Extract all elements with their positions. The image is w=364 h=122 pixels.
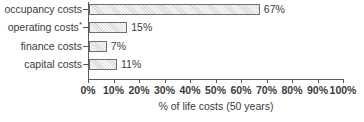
bar (89, 41, 107, 52)
bar-row: finance costs 7% (0, 40, 364, 57)
x-axis-title: % of life costs (50 years) (88, 100, 344, 113)
bar-value-label: 11% (121, 58, 141, 71)
value-axis-tick (318, 79, 319, 83)
footnote-marker: * (79, 20, 82, 29)
value-axis-tick (114, 79, 115, 83)
category-tick (83, 46, 88, 47)
bar-value-label: 67% (264, 3, 285, 16)
category-label-text: finance costs (21, 40, 82, 52)
value-axis-tick (216, 79, 217, 83)
category-label: occupancy costs (0, 3, 82, 16)
value-axis-tick (292, 79, 293, 83)
bar (89, 22, 127, 33)
value-axis-tick (343, 79, 344, 83)
bar-row: operating costs* 15% (0, 21, 364, 38)
category-label: operating costs* (0, 21, 82, 34)
bar-value-label: 15% (131, 21, 152, 34)
category-label-text: operating costs (8, 21, 79, 33)
value-axis-tick (165, 79, 166, 83)
category-label: capital costs (0, 58, 82, 71)
value-axis-tick (190, 79, 191, 83)
category-tick (83, 27, 88, 28)
bar-row: occupancy costs 67% (0, 3, 364, 20)
category-label-text: capital costs (24, 58, 82, 70)
category-label: finance costs (0, 40, 82, 53)
value-axis-tick (139, 79, 140, 83)
bar (89, 59, 117, 70)
value-axis-tick (241, 79, 242, 83)
category-tick (83, 64, 88, 65)
category-label-text: occupancy costs (4, 3, 82, 15)
bar-row: capital costs 11% (0, 58, 364, 75)
category-tick (83, 9, 88, 10)
bar-chart: occupancy costs 67% operating costs* 15%… (0, 0, 364, 122)
value-axis-tick (88, 79, 89, 83)
value-axis-tick (267, 79, 268, 83)
value-axis-tick-label: 100% (323, 84, 363, 97)
plot-area: occupancy costs 67% operating costs* 15%… (0, 0, 364, 122)
bar-value-label: 7% (111, 40, 126, 53)
bar (89, 4, 260, 15)
